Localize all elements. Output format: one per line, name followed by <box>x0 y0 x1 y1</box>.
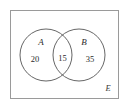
venn-diagram-canvas: A B 20 15 35 E <box>0 0 128 111</box>
set-a-only-count: 20 <box>31 54 40 64</box>
intersection-count: 15 <box>58 53 67 63</box>
venn-diagram: A B 20 15 35 E <box>0 0 128 111</box>
set-b-only-count: 35 <box>86 54 95 64</box>
universal-set-label: E <box>104 83 111 93</box>
set-a-label: A <box>37 37 44 47</box>
set-b-label: B <box>81 37 87 47</box>
